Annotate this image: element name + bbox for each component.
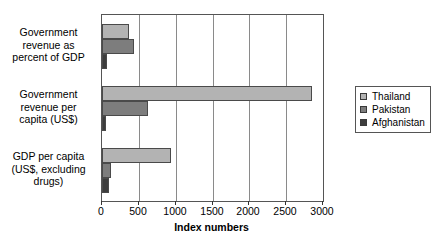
x-tick-label: 500 [118, 205, 158, 217]
category-label-line: Government [0, 88, 97, 101]
bar-pakistan-group-1 [102, 39, 134, 54]
plot-area [101, 14, 324, 202]
bar-afghanistan-group-2 [102, 116, 106, 131]
gridline [213, 15, 214, 201]
category-label-line: drugs) [0, 175, 97, 188]
category-label-line: revenue as [0, 39, 97, 52]
bar-thailand-group-3 [102, 148, 171, 163]
gridline [286, 15, 287, 201]
bar-chart: Governmentrevenue aspercent of GDPGovern… [0, 0, 439, 247]
gridline [176, 15, 177, 201]
legend-label: Afghanistan [372, 116, 425, 129]
category-label-3: GDP per capita(US$, excludingdrugs) [0, 150, 97, 188]
category-axis-labels: Governmentrevenue aspercent of GDPGovern… [0, 14, 97, 200]
legend-label: Thailand [372, 90, 410, 103]
legend-swatch-icon [360, 119, 367, 126]
legend-swatch-icon [360, 93, 367, 100]
category-label-line: Government [0, 26, 97, 39]
chart-legend: ThailandPakistanAfghanistan [355, 86, 431, 133]
bar-thailand-group-1 [102, 24, 129, 39]
category-label-line: revenue per [0, 101, 97, 114]
x-tick-label: 0 [81, 205, 121, 217]
x-tick-label: 2000 [228, 205, 268, 217]
x-tick-label: 1500 [192, 205, 232, 217]
x-tick-label: 2500 [265, 205, 305, 217]
gridline [249, 15, 250, 201]
bar-pakistan-group-3 [102, 163, 111, 178]
x-tick-label: 1000 [155, 205, 195, 217]
bar-thailand-group-2 [102, 86, 312, 101]
bar-pakistan-group-2 [102, 101, 148, 116]
category-label-line: (US$, excluding [0, 163, 97, 176]
category-label-line: capita (US$) [0, 113, 97, 126]
legend-item-pakistan: Pakistan [360, 103, 425, 116]
x-tick-label: 3000 [302, 205, 342, 217]
legend-label: Pakistan [372, 103, 410, 116]
legend-swatch-icon [360, 106, 367, 113]
x-axis-title: Index numbers [101, 221, 322, 233]
category-label-line: percent of GDP [0, 51, 97, 64]
legend-item-afghanistan: Afghanistan [360, 116, 425, 129]
category-label-line: GDP per capita [0, 150, 97, 163]
category-label-1: Governmentrevenue aspercent of GDP [0, 26, 97, 64]
bar-afghanistan-group-3 [102, 178, 109, 193]
legend-item-thailand: Thailand [360, 90, 425, 103]
bar-afghanistan-group-1 [102, 54, 107, 69]
category-label-2: Governmentrevenue percapita (US$) [0, 88, 97, 126]
